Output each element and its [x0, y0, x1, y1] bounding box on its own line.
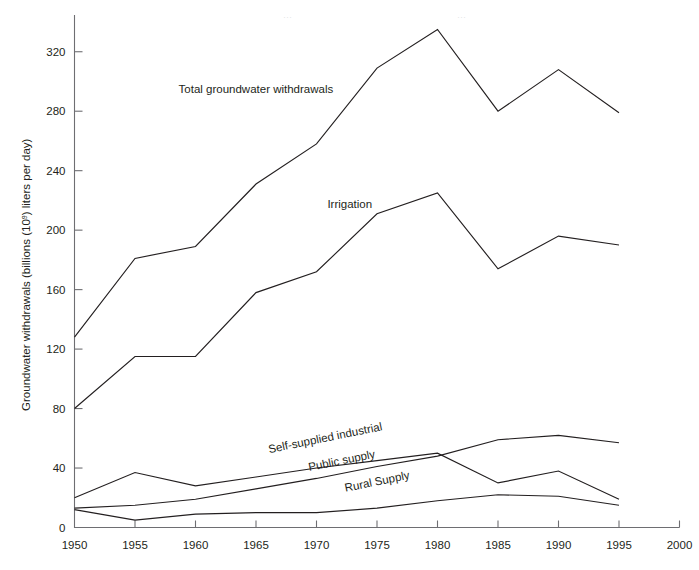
series-line-irrigation [75, 193, 620, 409]
y-tick-label: 0 [59, 522, 65, 534]
y-tick-label: 80 [53, 403, 66, 415]
svg-text:···: ··· [457, 12, 466, 22]
annotation-irrigation: Irrigation [327, 198, 372, 210]
axes [75, 15, 680, 528]
x-tick-label: 1980 [425, 539, 451, 551]
y-tick-label: 120 [46, 343, 65, 355]
axis-spine [75, 15, 680, 528]
y-tick-label: 280 [46, 105, 65, 117]
annotation-total-groundwater-withdrawals: Total groundwater withdrawals [179, 83, 334, 95]
line-chart-canvas: ··· ··· 04080120160200240280320 19501955… [0, 0, 699, 570]
y-tick-label: 200 [46, 224, 65, 236]
x-tick-label: 1975 [364, 539, 390, 551]
x-tick-label: 1970 [304, 539, 330, 551]
scan-artifact-smudges: ··· ··· [283, 12, 466, 22]
y-tick-label: 160 [46, 284, 65, 296]
series-line-rural-supply [75, 495, 620, 520]
y-tick-label: 40 [53, 462, 66, 474]
x-tick-label: 1995 [606, 539, 632, 551]
y-tick-label: 320 [46, 46, 65, 58]
x-tick-label: 1965 [243, 539, 269, 551]
svg-text:···: ··· [283, 12, 292, 22]
x-tick-label: 1985 [485, 539, 511, 551]
x-tick-label: 1950 [62, 539, 88, 551]
y-tick-label: 240 [46, 165, 65, 177]
x-axis-ticks: 1950195519601965197019751980198519901995… [62, 521, 693, 551]
x-tick-label: 1955 [122, 539, 148, 551]
data-series-lines [75, 29, 620, 520]
x-tick-label: 2000 [667, 539, 693, 551]
x-tick-label: 1990 [546, 539, 572, 551]
y-axis-title-text: Groundwater withdrawals (billions (109) … [20, 138, 32, 411]
y-axis-title: Groundwater withdrawals (billions (109) … [20, 138, 32, 411]
chart-figure: ··· ··· 04080120160200240280320 19501955… [0, 0, 699, 570]
x-tick-label: 1960 [183, 539, 209, 551]
annotation-rural-supply: Rural Supply [344, 469, 411, 494]
series-line-total-groundwater-withdrawals [75, 29, 620, 337]
series-inline-labels: Total groundwater withdrawalsIrrigationS… [179, 83, 411, 493]
y-axis-ticks: 04080120160200240280320 [46, 46, 82, 534]
series-line-public-supply [75, 435, 620, 508]
